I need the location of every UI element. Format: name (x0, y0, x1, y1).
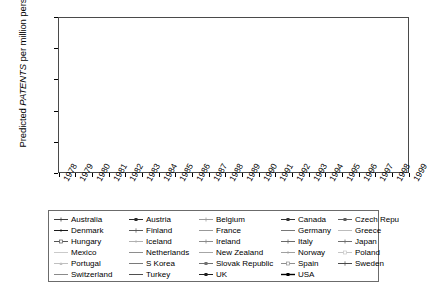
legend-label: Hungary (71, 236, 101, 247)
legend-marker-icon (128, 226, 144, 235)
legend-marker-icon (280, 237, 296, 246)
legend-item[interactable]: Turkey (128, 269, 198, 280)
y-axis-title-emphasis: PATENTS (17, 64, 28, 106)
legend-label: New Zealand (216, 247, 263, 258)
plot-area (58, 17, 409, 173)
legend-item[interactable]: Denmark (53, 225, 128, 236)
legend-label: Finland (146, 225, 172, 236)
legend-item[interactable]: UK (198, 269, 280, 280)
legend-label: France (216, 225, 241, 236)
legend-marker-icon (198, 259, 214, 268)
legend-item[interactable]: Mexico (53, 247, 128, 258)
legend-label: UK (216, 269, 227, 280)
x-tick-mark (392, 173, 393, 177)
legend-marker-icon (337, 259, 353, 268)
legend-item[interactable]: Iceland (128, 236, 198, 247)
legend-label: Norway (298, 247, 325, 258)
chart-page: Predicted PATENTS per million persons 05… (0, 0, 427, 293)
legend-marker-icon (53, 226, 69, 235)
legend-item[interactable]: Italy (280, 236, 337, 247)
legend-marker-icon (280, 215, 296, 224)
legend-item[interactable]: USA (280, 269, 337, 280)
x-tick-mark (275, 173, 276, 177)
legend-marker-icon (53, 215, 69, 224)
legend-label: Switzerland (71, 269, 112, 280)
legend-label: S Korea (146, 258, 175, 269)
legend-item[interactable]: Spain (280, 258, 337, 269)
legend-marker-icon (198, 270, 214, 279)
legend-marker-icon (53, 237, 69, 246)
legend-item[interactable]: Japan (337, 236, 399, 247)
legend-item[interactable]: Australia (53, 214, 128, 225)
legend-grid: AustraliaAustriaBelgiumCanadaCzech Repub… (53, 214, 376, 280)
legend-item[interactable]: S Korea (128, 258, 198, 269)
legend-item[interactable]: New Zealand (198, 247, 280, 258)
legend-label: USA (298, 269, 314, 280)
y-axis-title-suffix: per million persons (17, 0, 28, 64)
legend-label: Japan (355, 236, 377, 247)
legend-item[interactable]: Netherlands (128, 247, 198, 258)
y-tick-mark (54, 173, 58, 174)
x-tick-mark (375, 173, 376, 177)
legend-label: Czech Republic (355, 214, 399, 225)
legend-marker-icon (128, 215, 144, 224)
plot-frame (58, 17, 409, 173)
legend-item[interactable]: France (198, 225, 280, 236)
legend-marker-icon (198, 248, 214, 257)
x-tick-mark (359, 173, 360, 177)
legend-label: Canada (298, 214, 326, 225)
legend-label: Ireland (216, 236, 240, 247)
legend-label: Slovak Republic (216, 258, 273, 269)
x-tick-mark (159, 173, 160, 177)
legend-label: Belgium (216, 214, 245, 225)
legend-marker-icon (337, 237, 353, 246)
legend-marker-icon (337, 248, 353, 257)
legend-item[interactable]: Poland (337, 247, 399, 258)
legend-item[interactable]: Canada (280, 214, 337, 225)
x-tick-mark (175, 173, 176, 177)
legend-item[interactable]: Ireland (198, 236, 280, 247)
legend-label: Austria (146, 214, 171, 225)
legend-label: Netherlands (146, 247, 189, 258)
x-tick-mark (109, 173, 110, 177)
legend-item[interactable]: Finland (128, 225, 198, 236)
legend-item[interactable]: Austria (128, 214, 198, 225)
legend-item[interactable]: Slovak Republic (198, 258, 280, 269)
legend-item[interactable]: Germany (280, 225, 337, 236)
x-tick-mark (125, 173, 126, 177)
legend-marker-icon (198, 237, 214, 246)
legend-label: Iceland (146, 236, 172, 247)
legend-marker-icon (280, 259, 296, 268)
x-tick-mark (92, 173, 93, 177)
legend-label: Australia (71, 214, 102, 225)
legend-marker-icon (198, 215, 214, 224)
x-tick-mark (142, 173, 143, 177)
legend-marker-icon (128, 237, 144, 246)
legend-marker-icon (280, 270, 296, 279)
x-tick-mark (209, 173, 210, 177)
legend-label: Mexico (71, 247, 96, 258)
legend-label: Portugal (71, 258, 101, 269)
legend-marker-icon (128, 259, 144, 268)
legend-item[interactable]: Czech Republic (337, 214, 399, 225)
legend-label: Spain (298, 258, 318, 269)
legend-item[interactable]: Norway (280, 247, 337, 258)
legend-marker-icon (53, 259, 69, 268)
y-axis-title: Predicted PATENTS per million persons (17, 0, 28, 151)
legend-marker-icon (198, 226, 214, 235)
legend-item[interactable]: Portugal (53, 258, 128, 269)
legend-label: Italy (298, 236, 313, 247)
x-tick-mark (75, 173, 76, 177)
x-tick-mark (325, 173, 326, 177)
legend-item[interactable]: Hungary (53, 236, 128, 247)
legend-label: Turkey (146, 269, 170, 280)
legend-item[interactable]: Belgium (198, 214, 280, 225)
legend: AustraliaAustriaBelgiumCanadaCzech Repub… (48, 210, 379, 282)
legend-item[interactable]: Sweden (337, 258, 399, 269)
legend-label: Greece (355, 225, 381, 236)
legend-item[interactable]: Switzerland (53, 269, 128, 280)
legend-marker-icon (53, 270, 69, 279)
legend-item[interactable]: Greece (337, 225, 399, 236)
legend-label: Sweden (355, 258, 384, 269)
legend-label: Germany (298, 225, 331, 236)
